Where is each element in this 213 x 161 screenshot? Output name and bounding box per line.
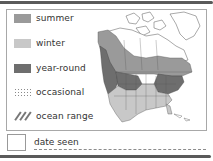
legend-label: year-round xyxy=(36,63,86,73)
ocean-range-hatch-icon xyxy=(14,112,31,121)
top-rule xyxy=(0,1,213,4)
occasional-dotted-swatch-icon xyxy=(14,88,31,97)
legend-item-ocean-range: ocean range xyxy=(14,110,93,122)
legend-item-occasional: occasional xyxy=(14,86,84,98)
legend-item-summer: summer xyxy=(14,12,74,24)
legend-item-year-round: year-round xyxy=(14,62,86,74)
winter-swatch-icon xyxy=(14,39,31,48)
bottom-rule xyxy=(0,155,211,158)
legend-label: summer xyxy=(36,13,74,23)
legend-label: occasional xyxy=(36,87,84,97)
date-seen-checkbox[interactable] xyxy=(7,134,26,151)
year-round-swatch-icon xyxy=(14,64,31,73)
north-america-range-map xyxy=(96,10,204,128)
legend-label: ocean range xyxy=(36,111,93,121)
date-seen-label: date seen xyxy=(34,137,79,147)
legend-item-winter: winter xyxy=(14,37,65,49)
florida xyxy=(166,104,172,114)
summer-swatch-icon xyxy=(14,14,31,23)
date-seen-entry-line[interactable] xyxy=(34,149,206,150)
legend-label: winter xyxy=(36,38,65,48)
caribbean-islands xyxy=(174,114,190,121)
